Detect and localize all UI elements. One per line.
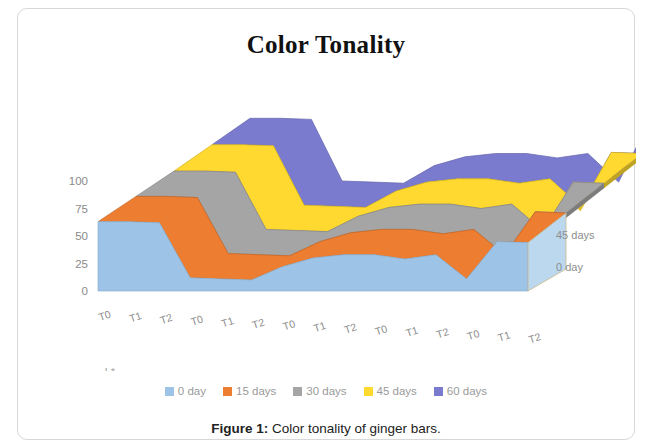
x-tick-8-T2: T2: [343, 320, 359, 335]
x-tick-14-T2: T2: [527, 330, 543, 345]
x-tick-10-T1: T1: [404, 324, 420, 339]
x-tick-7-T1: T1: [312, 319, 328, 334]
legend-label: 15 days: [236, 385, 276, 397]
figure-caption-label: Figure 1:: [211, 421, 268, 436]
legend-label: 45 days: [377, 385, 417, 397]
y-tick-100: 100: [69, 175, 88, 187]
y-tick-25: 25: [75, 258, 88, 270]
depth-label-top: 45 days: [556, 229, 595, 241]
x-tick-13-T1: T1: [496, 328, 512, 343]
x-tick-11-T2: T2: [435, 325, 451, 340]
legend-item-30-days[interactable]: 30 days: [293, 385, 346, 397]
chart-title: Color Tonality: [18, 31, 634, 59]
x-tick-12-T0: T0: [465, 327, 481, 342]
legend-item-15-days[interactable]: 15 days: [223, 385, 276, 397]
figure-caption: Figure 1: Color tonality of ginger bars.: [18, 421, 634, 436]
x-tick-2-T2: T2: [158, 311, 174, 326]
y-tick-75: 75: [75, 203, 88, 215]
legend-label: 30 days: [306, 385, 346, 397]
x-axis-group-labels: L*a*b*ChromaHue: [105, 366, 510, 371]
x-axis-tick-labels: T0T1T2T0T1T2T0T1T2T0T1T2T0T1T2: [97, 308, 543, 346]
x-tick-4-T1: T1: [220, 314, 236, 329]
y-axis-tick-labels: 0255075100: [69, 175, 88, 297]
x-tick-5-T2: T2: [250, 316, 266, 331]
x-tick-3-T0: T0: [189, 312, 205, 327]
figure-caption-text: Color tonality of ginger bars.: [268, 421, 441, 436]
x-tick-0-T0: T0: [97, 308, 113, 323]
legend-swatch-icon: [165, 387, 174, 396]
y-tick-0: 0: [82, 285, 88, 297]
legend-swatch-icon: [223, 387, 232, 396]
legend-item-0-day[interactable]: 0 day: [165, 385, 206, 397]
legend-swatch-icon: [434, 387, 443, 396]
chart-legend: 0 day15 days30 days45 days60 days: [18, 385, 634, 397]
legend-label: 60 days: [447, 385, 487, 397]
x-tick-1-T1: T1: [128, 309, 144, 324]
legend-label: 0 day: [178, 385, 206, 397]
x-tick-9-T0: T0: [373, 322, 389, 337]
depth-label-bottom: 0 day: [556, 261, 583, 273]
legend-item-45-days[interactable]: 45 days: [364, 385, 417, 397]
legend-swatch-icon: [364, 387, 373, 396]
legend-item-60-days[interactable]: 60 days: [434, 385, 487, 397]
chart-plot-area: 0255075100 T0T1T2T0T1T2T0T1T2T0T1T2T0T1T…: [36, 91, 636, 371]
legend-swatch-icon: [293, 387, 302, 396]
figure-frame: Color Tonality 0255075100 T0T1T2T0T1T2T0…: [17, 8, 635, 440]
group-label-Lstar: L*: [105, 366, 116, 371]
color-tonality-3d-area-chart: 0255075100 T0T1T2T0T1T2T0T1T2T0T1T2T0T1T…: [36, 91, 636, 371]
x-tick-6-T0: T0: [281, 317, 297, 332]
y-tick-50: 50: [75, 230, 88, 242]
